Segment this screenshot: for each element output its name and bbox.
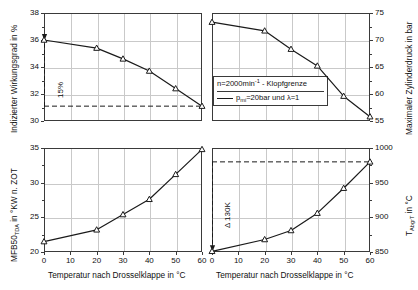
data-point-marker [288,227,294,232]
data-point-marker [288,46,294,51]
data-series-line [212,162,370,251]
data-point-marker [173,86,179,91]
data-point-marker [199,146,205,151]
data-series-line [44,40,202,106]
data-series-line [212,22,370,117]
data-point-marker [94,227,100,232]
data-series-line [44,149,202,241]
data-point-marker [41,37,47,42]
figure-root: Indizierter Wirkungsgrad in % 3032343638… [0,0,418,290]
data-point-marker [120,211,126,216]
data-point-marker [209,19,215,24]
data-point-marker [314,63,320,68]
chart-curves-overlay [0,0,418,290]
